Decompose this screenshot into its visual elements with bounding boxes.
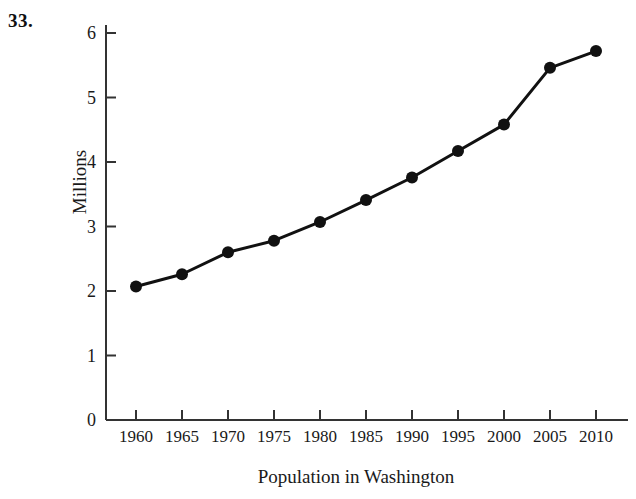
x-axis-tick-label: 2010: [570, 428, 622, 446]
x-axis-tick-label: 1970: [202, 428, 254, 446]
x-axis-tick-label: 1960: [110, 428, 162, 446]
data-point-marker: [498, 119, 510, 131]
data-point-marker: [406, 171, 418, 183]
x-axis-tick-label: 1990: [386, 428, 438, 446]
x-axis-tick-label: 2000: [478, 428, 530, 446]
y-axis-ticks: [106, 33, 116, 420]
data-point-marker: [590, 45, 602, 57]
data-point-marker: [268, 235, 280, 247]
data-point-marker: [544, 62, 556, 74]
series-line: [136, 51, 596, 286]
x-axis-tick-label: 1995: [432, 428, 484, 446]
y-axis-tick-label: 2: [70, 282, 96, 300]
x-axis-tick-label: 2005: [524, 428, 576, 446]
y-axis-tick-label: 3: [70, 218, 96, 236]
y-axis-tick-label: 6: [70, 24, 96, 42]
data-point-marker: [176, 268, 188, 280]
x-axis-tick-label: 1975: [248, 428, 300, 446]
data-point-marker: [130, 280, 142, 292]
x-axis-ticks: [136, 410, 596, 420]
data-point-marker: [360, 194, 372, 206]
data-point-marker: [222, 246, 234, 258]
x-axis-tick-label: 1985: [340, 428, 392, 446]
data-series: [136, 51, 596, 286]
data-point-markers: [130, 45, 602, 292]
figure-container: 33. Millions Population in Washington 01…: [0, 0, 636, 499]
x-axis-tick-label: 1980: [294, 428, 346, 446]
data-point-marker: [452, 145, 464, 157]
axes: [106, 25, 628, 420]
y-axis-tick-label: 1: [70, 347, 96, 365]
y-axis-tick-label: 5: [70, 89, 96, 107]
y-axis-tick-label: 4: [70, 153, 96, 171]
data-point-marker: [314, 216, 326, 228]
y-axis-tick-label: 0: [70, 411, 96, 429]
x-axis-tick-label: 1965: [156, 428, 208, 446]
